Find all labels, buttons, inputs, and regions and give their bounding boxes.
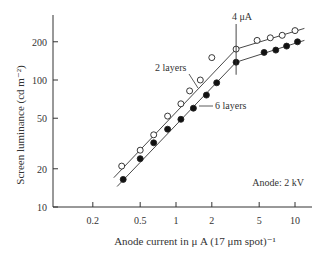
open-circle-point xyxy=(165,113,171,119)
x-axis-label: Anode current in μ A (17 μm spot)⁻¹ xyxy=(114,235,276,248)
x-tick-label: 10 xyxy=(290,215,300,226)
x-tick-label: 0.2 xyxy=(87,215,100,226)
filled-circle-point xyxy=(120,176,126,182)
x-tick-label: 0.5 xyxy=(134,215,147,226)
label-2-layers: 2 layers xyxy=(155,62,186,73)
x-tick-label: 5 xyxy=(257,215,262,226)
anode-voltage-label: Anode: 2 kV xyxy=(252,177,304,188)
open-circle-point xyxy=(197,77,203,83)
open-circle-point xyxy=(209,55,215,61)
filled-circle-point xyxy=(295,39,301,45)
x-tick-label: 1 xyxy=(174,215,179,226)
filled-circle-point xyxy=(261,49,267,55)
open-circle-point xyxy=(292,28,298,34)
open-circle-point xyxy=(119,163,125,169)
filled-circle-point xyxy=(284,43,290,49)
filled-circle-point xyxy=(214,80,220,86)
filled-circle-point xyxy=(151,140,157,146)
y-tick-label: 10 xyxy=(37,202,47,213)
marker-4ua-label: 4 μA xyxy=(232,11,253,22)
open-circle-point xyxy=(137,147,143,153)
y-tick-label: 20 xyxy=(37,164,47,175)
annotations xyxy=(189,24,236,106)
series xyxy=(114,28,305,187)
open-circle-point xyxy=(254,37,260,43)
open-circle-point xyxy=(267,35,273,41)
filled-circle-point xyxy=(203,92,209,98)
leader-2-layers xyxy=(189,74,198,88)
filled-circle-point xyxy=(273,47,279,53)
label-6-layers: 6 layers xyxy=(215,100,246,111)
y-tick-label: 50 xyxy=(37,113,47,124)
y-axis-label: Screen luminance (cd m⁻²) xyxy=(14,65,27,185)
luminance-chart: 1020501002000.20.512510 Screen luminance… xyxy=(0,0,330,258)
y-tick-label: 200 xyxy=(32,37,47,48)
filled-circle-point xyxy=(165,126,171,132)
x-tick-label: 2 xyxy=(209,215,214,226)
y-tick-label: 100 xyxy=(32,75,47,86)
filled-circle-point xyxy=(178,116,184,122)
fit-line xyxy=(117,40,304,186)
filled-circle-point xyxy=(190,105,196,111)
open-circle-point xyxy=(178,101,184,107)
open-circle-point xyxy=(151,132,157,138)
open-circle-point xyxy=(187,88,193,94)
open-circle-point xyxy=(279,32,285,38)
filled-circle-point xyxy=(137,156,143,162)
